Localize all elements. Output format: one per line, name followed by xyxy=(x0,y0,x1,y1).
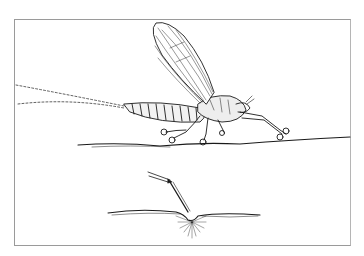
abdomen xyxy=(124,103,205,123)
light-rays xyxy=(176,216,206,238)
tails xyxy=(16,85,124,108)
inset-surface-detail xyxy=(108,172,260,238)
mayfly-illustration xyxy=(0,0,364,256)
water-surface-upper xyxy=(78,137,350,146)
wing xyxy=(153,23,214,104)
